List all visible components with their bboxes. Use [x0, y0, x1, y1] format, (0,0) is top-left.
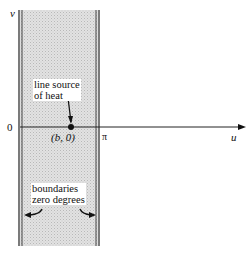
diagram-canvas [0, 0, 251, 256]
boundary-annotation-line1: boundaries [32, 183, 85, 194]
v-axis-label: v [10, 8, 15, 19]
pi-label: π [102, 131, 107, 142]
boundary-annotation: boundaries zero degrees [31, 183, 86, 205]
origin-label: 0 [7, 122, 13, 133]
point-coordinate: (b, 0) [51, 131, 75, 143]
u-axis-arrow-icon [238, 124, 246, 130]
u-axis-label: u [231, 132, 237, 143]
boundary-annotation-line2: zero degrees [32, 194, 85, 205]
source-annotation: line source of heat [33, 79, 81, 101]
shaded-strip [20, 10, 98, 246]
source-point [68, 124, 74, 130]
source-annotation-line1: line source [34, 79, 80, 90]
source-annotation-line2: of heat [34, 90, 80, 101]
point-label: (b, 0) [51, 132, 75, 143]
